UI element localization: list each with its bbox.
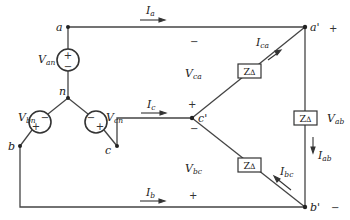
label-node-a: a bbox=[56, 21, 63, 34]
label-vbc: Vbc bbox=[185, 162, 203, 176]
label-node-b: b bbox=[8, 140, 15, 153]
vab-minus-sign: − bbox=[331, 202, 339, 213]
wire-c-line bbox=[117, 118, 192, 146]
vab-plus-sign: + bbox=[329, 23, 337, 34]
impedance-ca: ZΔ bbox=[238, 64, 261, 78]
circuit-diagram: + − + − − + ZΔ ZΔ ZΔ a n b c a' b' c' Va… bbox=[0, 0, 350, 220]
label-node-c-prime: c' bbox=[198, 112, 207, 125]
vbc-plus-sign: + bbox=[189, 190, 197, 201]
label-node-b-prime: b' bbox=[310, 201, 320, 214]
svg-text:ZΔ: ZΔ bbox=[243, 160, 256, 171]
source-van: + − bbox=[57, 49, 79, 72]
label-node-c: c bbox=[105, 144, 111, 157]
label-node-n: n bbox=[59, 85, 66, 98]
vbn-minus-sign: − bbox=[41, 112, 49, 123]
vca-minus-sign: − bbox=[190, 36, 198, 47]
node-n bbox=[66, 96, 70, 100]
svg-text:ZΔ: ZΔ bbox=[299, 113, 312, 124]
wire-n-vcn bbox=[68, 98, 88, 114]
label-vca: Vca bbox=[185, 67, 202, 81]
vca-plus-sign: + bbox=[188, 99, 196, 110]
source-vcn: − + bbox=[85, 111, 107, 133]
wire-b-line bbox=[20, 146, 305, 207]
node-b-prime bbox=[303, 205, 307, 209]
label-ic: Ic bbox=[146, 98, 156, 112]
vcn-minus-sign: − bbox=[87, 112, 95, 123]
label-ibc: Ibc bbox=[279, 165, 294, 179]
vcn-plus-sign: + bbox=[96, 121, 104, 132]
label-vab: Vab bbox=[327, 112, 344, 126]
impedance-bc: ZΔ bbox=[238, 158, 261, 172]
label-ib: Ib bbox=[145, 186, 155, 200]
node-a-prime bbox=[303, 25, 307, 29]
wire-vbn-b bbox=[20, 130, 32, 146]
vbc-minus-sign: − bbox=[190, 123, 198, 134]
node-c-prime bbox=[190, 116, 194, 120]
impedance-ab: ZΔ bbox=[294, 111, 317, 125]
label-node-a-prime: a' bbox=[310, 21, 320, 34]
node-b bbox=[18, 144, 22, 148]
label-ia: Ia bbox=[145, 4, 155, 18]
label-ica: Ica bbox=[255, 36, 269, 50]
label-vcn: Vcn bbox=[106, 111, 123, 125]
node-c bbox=[115, 144, 119, 148]
wire-n-vbn bbox=[48, 98, 68, 114]
label-iab: Iab bbox=[317, 149, 332, 163]
svg-text:ZΔ: ZΔ bbox=[243, 66, 256, 77]
van-plus-sign: + bbox=[64, 50, 72, 61]
node-a bbox=[66, 25, 70, 29]
van-minus-sign: − bbox=[64, 61, 72, 72]
label-van: Van bbox=[38, 53, 55, 67]
